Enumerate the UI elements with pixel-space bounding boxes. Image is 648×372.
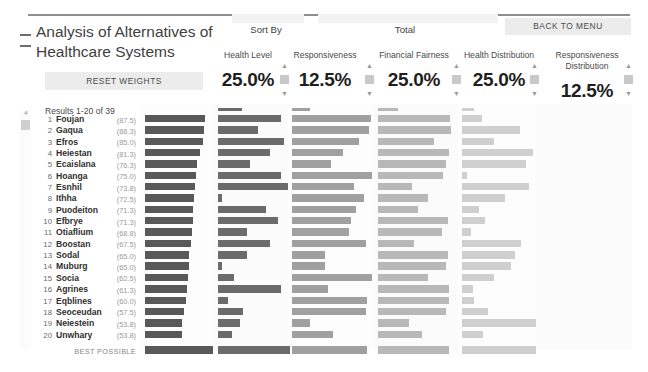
spinner-up-icon[interactable]: ▲ [365, 62, 374, 69]
weight-spinner-1[interactable]: ▲▼ [365, 62, 374, 102]
row-rank: 8 [38, 194, 52, 203]
bar-2 [292, 194, 364, 201]
bar-0 [145, 331, 182, 338]
bar-4 [462, 149, 533, 156]
table-row[interactable]: 12Boostan(67.5) [0, 239, 648, 250]
row-name: Ecaislana [56, 159, 96, 169]
bar-4 [462, 228, 471, 235]
bar-2 [292, 160, 331, 167]
spinner-up-icon[interactable]: ▲ [530, 62, 539, 69]
row-name: Agrines [56, 284, 88, 294]
table-row[interactable]: 17Eqblines(60.0) [0, 296, 648, 307]
spinner-down-icon[interactable]: ▼ [365, 90, 374, 97]
table-row[interactable]: 4Heiestan(81.3) [0, 148, 648, 159]
weight-column-value[interactable]: 12.5% [540, 80, 634, 102]
table-row[interactable]: 13Sodal(65.0) [0, 250, 648, 261]
bar-1 [218, 319, 240, 326]
table-row[interactable]: 18Seoceudan(57.5) [0, 307, 648, 318]
bar-4 [462, 240, 521, 247]
spinner-down-icon[interactable]: ▼ [530, 90, 539, 97]
table-row[interactable]: 20Unwhary(53.8) [0, 330, 648, 341]
bar-0 [145, 115, 205, 122]
spinner-down-icon[interactable]: ▼ [624, 90, 633, 97]
table-row[interactable]: 10Efbrye(71.3) [0, 216, 648, 227]
weight-column-name: Responsiveness Distribution [540, 50, 634, 72]
row-total-score: (62.5) [100, 274, 136, 283]
table-row[interactable]: 6Hoanga(75.0) [0, 171, 648, 182]
bar-3 [378, 206, 418, 213]
row-total-score: (60.0) [100, 297, 136, 306]
weight-column-value[interactable]: 25.0% [462, 69, 536, 91]
bar-2 [292, 183, 354, 190]
bar-4 [462, 308, 488, 315]
weight-spinner-2[interactable]: ▲▼ [452, 62, 461, 102]
table-row[interactable]: 14Muburg(65.0) [0, 261, 648, 272]
spinner-up-icon[interactable]: ▲ [280, 62, 289, 69]
weight-spinner-4[interactable]: ▲▼ [624, 62, 633, 102]
row-rank: 6 [38, 172, 52, 181]
weight-spinner-3[interactable]: ▲▼ [530, 62, 539, 102]
bar-2 [292, 319, 310, 326]
spinner-thumb[interactable] [624, 75, 633, 84]
row-total-score: (67.5) [100, 240, 136, 249]
bar-1 [218, 274, 234, 281]
weight-column-value[interactable]: 12.5% [285, 69, 365, 91]
spinner-down-icon[interactable]: ▼ [452, 90, 461, 97]
row-name: Boostan [56, 239, 90, 249]
row-rank: 19 [38, 319, 52, 328]
table-row[interactable]: 1Foujan(87.5) [0, 114, 648, 125]
table-row[interactable]: 3Efros(85.0) [0, 137, 648, 148]
spinner-up-icon[interactable]: ▲ [624, 62, 633, 69]
table-row[interactable]: 11Otiaflium(68.8) [0, 227, 648, 238]
row-rank: 1 [38, 115, 52, 124]
bar-2 [292, 262, 325, 269]
row-name: Heiestan [56, 148, 92, 158]
table-row[interactable]: 15Socia(62.5) [0, 273, 648, 284]
row-rank: 5 [38, 160, 52, 169]
spinner-thumb[interactable] [530, 75, 539, 84]
table-row[interactable]: 7Esnhil(73.8) [0, 182, 648, 193]
bar-3 [378, 160, 446, 167]
bar-3 [378, 138, 434, 145]
spinner-down-icon[interactable]: ▼ [280, 90, 289, 97]
table-row[interactable]: 5Ecaislana(76.3) [0, 159, 648, 170]
best-possible-bar-4 [462, 346, 536, 354]
bar-0 [145, 194, 194, 201]
row-rank: 20 [38, 331, 52, 340]
row-rank: 7 [38, 183, 52, 192]
weight-column-value[interactable]: 25.0% [370, 69, 458, 91]
bar-2 [292, 274, 372, 281]
spinner-thumb[interactable] [452, 75, 461, 84]
table-row[interactable]: 16Agrines(61.3) [0, 284, 648, 295]
weight-column-1: Responsiveness12.5% [285, 50, 365, 91]
weight-column-value[interactable]: 25.0% [213, 69, 283, 91]
table-row[interactable]: 2Gaqua(86.3) [0, 125, 648, 136]
sort-by-band [232, 14, 304, 23]
bar-1 [218, 228, 247, 235]
spinner-thumb[interactable] [280, 75, 289, 84]
row-name: Efros [56, 137, 78, 147]
bar-2 [292, 331, 333, 338]
spinner-thumb[interactable] [365, 75, 374, 84]
bar-3 [378, 217, 448, 224]
bar-4 [462, 138, 494, 145]
row-rank: 12 [38, 240, 52, 249]
bar-2 [292, 285, 328, 292]
bar-4 [462, 251, 515, 258]
table-row[interactable]: 19Neiestein(53.8) [0, 318, 648, 329]
bar-1 [218, 297, 228, 304]
table-row[interactable]: 8Ithha(72.5) [0, 193, 648, 204]
bar-1 [218, 149, 270, 156]
table-row[interactable]: 9Puodeiton(71.3) [0, 205, 648, 216]
row-rank: 18 [38, 308, 52, 317]
back-to-menu-button[interactable]: BACK TO MENU [505, 18, 631, 35]
bar-1 [218, 262, 222, 269]
reset-weights-button[interactable]: RESET WEIGHTS [45, 72, 203, 90]
best-possible-bar-0 [145, 346, 213, 354]
collapse-dashes-icon[interactable] [20, 34, 32, 56]
spinner-up-icon[interactable]: ▲ [452, 62, 461, 69]
row-total-score: (57.5) [100, 308, 136, 317]
bar-0 [145, 262, 189, 269]
weight-spinner-0[interactable]: ▲▼ [280, 62, 289, 102]
sort-by-label: Sort By [224, 24, 308, 35]
